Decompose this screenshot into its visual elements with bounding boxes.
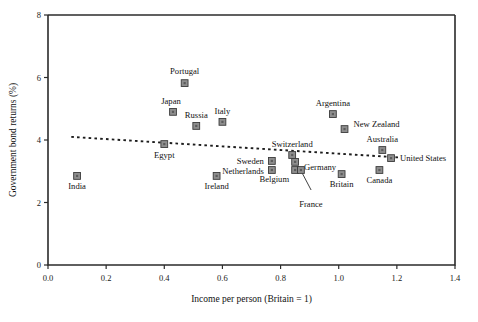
point-label-france: France — [299, 199, 323, 209]
marker-center-united-states — [390, 157, 392, 159]
point-label-egypt: Egypt — [154, 150, 175, 160]
marker-center-germany — [294, 161, 296, 163]
point-label-belgium: Belgium — [259, 174, 289, 184]
data-point-canada[interactable]: Canada — [367, 167, 393, 185]
y-axis-title: Government bond returns (%) — [8, 83, 19, 197]
marker-center-new-zealand — [343, 128, 345, 130]
axes-group: 024680.00.20.40.60.81.01.21.4 — [37, 10, 461, 283]
marker-center-argentina — [332, 113, 334, 115]
data-point-russia[interactable]: Russia — [185, 110, 208, 129]
point-label-argentina: Argentina — [316, 98, 350, 108]
data-point-switzerland[interactable]: Switzerland — [272, 139, 314, 158]
marker-center-australia — [381, 149, 383, 151]
y-tick-label-2: 2 — [37, 198, 41, 208]
y-tick-label-8: 8 — [37, 10, 41, 20]
x-tick-label-1.4: 1.4 — [450, 273, 461, 283]
leader-lines-group — [302, 173, 311, 190]
x-tick-label-0.8: 0.8 — [275, 273, 286, 283]
marker-center-france — [300, 169, 302, 171]
point-label-italy: Italy — [215, 106, 231, 116]
point-label-portugal: Portugal — [170, 66, 200, 76]
x-tick-label-0.4: 0.4 — [159, 273, 170, 283]
point-label-japan: Japan — [161, 96, 181, 106]
data-point-belgium[interactable]: Belgium — [259, 167, 298, 184]
data-points-group: IndiaEgyptJapanPortugalRussiaIrelandItal… — [68, 66, 447, 209]
marker-center-portugal — [184, 82, 186, 84]
marker-center-sweden — [271, 160, 273, 162]
leader-line-france — [302, 173, 311, 190]
x-tick-label-1.2: 1.2 — [392, 273, 403, 283]
point-label-sweden: Sweden — [237, 156, 265, 166]
x-tick-label-0.0: 0.0 — [43, 273, 54, 283]
point-label-united-states: United States — [400, 153, 447, 163]
plot-svg: 024680.00.20.40.60.81.01.21.4 IndiaEgypt… — [0, 0, 478, 322]
marker-center-russia — [195, 125, 197, 127]
marker-center-belgium — [294, 169, 296, 171]
marker-center-netherlands — [271, 169, 273, 171]
point-label-germany: Germany — [304, 162, 337, 172]
y-tick-label-4: 4 — [37, 135, 42, 145]
point-label-new-zealand: New Zealand — [354, 119, 401, 129]
point-label-switzerland: Switzerland — [272, 139, 314, 149]
x-tick-label-0.6: 0.6 — [217, 273, 228, 283]
data-point-italy[interactable]: Italy — [215, 106, 231, 125]
marker-center-italy — [221, 121, 223, 123]
data-point-australia[interactable]: Australia — [367, 134, 399, 153]
data-point-portugal[interactable]: Portugal — [170, 66, 200, 86]
point-label-netherlands: Netherlands — [222, 166, 264, 176]
marker-center-switzerland — [291, 154, 293, 156]
marker-center-japan — [172, 111, 174, 113]
marker-center-canada — [378, 169, 380, 171]
axis-titles-group: Income per person (Britain = 1)Governmen… — [8, 83, 312, 305]
x-axis-title: Income per person (Britain = 1) — [191, 294, 312, 305]
trend-line — [71, 137, 400, 158]
point-label-ireland: Ireland — [204, 181, 229, 191]
scatter-chart-figure: 024680.00.20.40.60.81.01.21.4 IndiaEgypt… — [0, 0, 478, 322]
x-tick-label-1.0: 1.0 — [333, 273, 344, 283]
data-point-britain[interactable]: Britain — [330, 171, 355, 189]
point-label-russia: Russia — [185, 110, 208, 120]
point-label-canada: Canada — [367, 175, 393, 185]
marker-center-ireland — [216, 175, 218, 177]
data-point-new-zealand[interactable]: New Zealand — [341, 119, 400, 132]
data-point-sweden[interactable]: Sweden — [237, 156, 276, 166]
point-label-britain: Britain — [330, 179, 355, 189]
data-point-india[interactable]: India — [68, 173, 86, 191]
marker-center-india — [76, 175, 78, 177]
x-tick-label-0.2: 0.2 — [101, 273, 112, 283]
y-tick-label-6: 6 — [37, 73, 41, 83]
point-label-australia: Australia — [367, 134, 399, 144]
y-tick-label-0: 0 — [37, 260, 41, 270]
data-point-japan[interactable]: Japan — [161, 96, 181, 115]
point-label-india: India — [68, 181, 86, 191]
data-point-argentina[interactable]: Argentina — [316, 98, 350, 117]
marker-center-britain — [341, 173, 343, 175]
trendline-group — [71, 137, 400, 158]
marker-center-egypt — [163, 143, 165, 145]
